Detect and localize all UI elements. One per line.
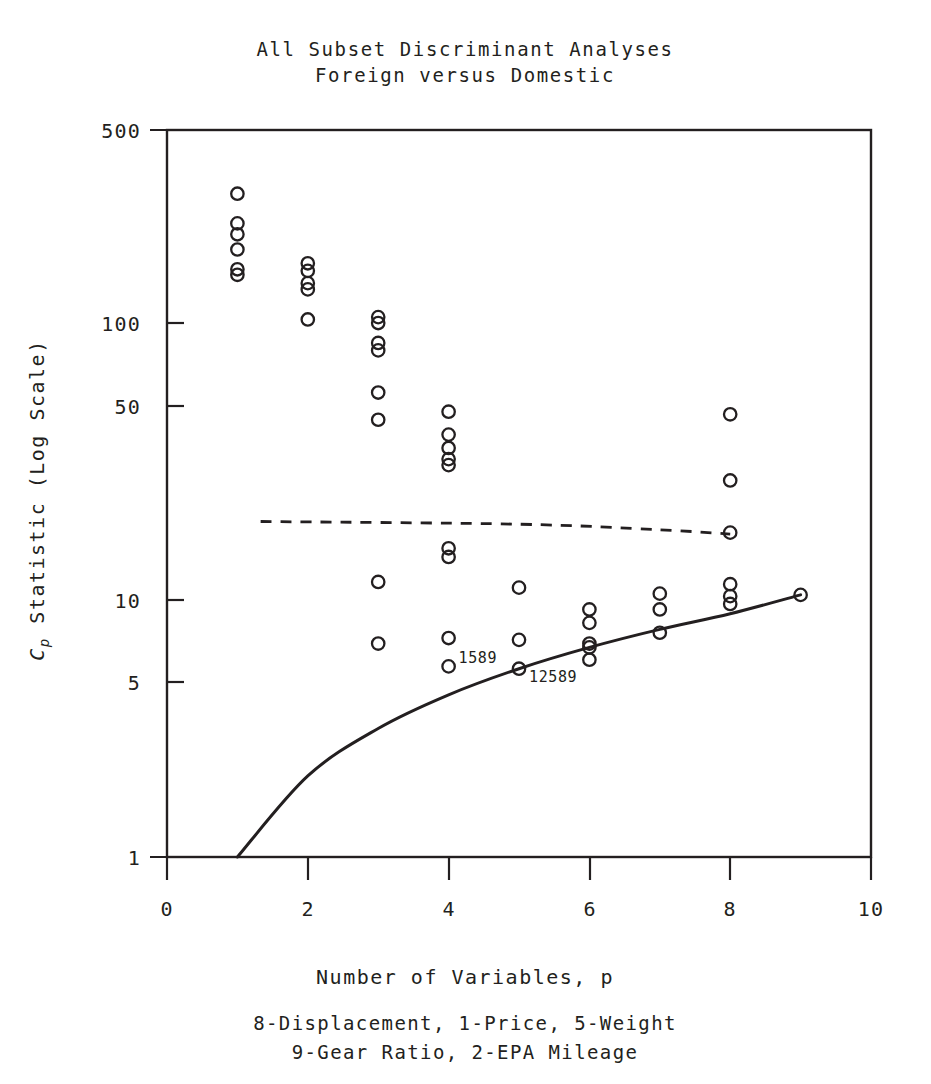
y-ticklabel-2: 50: [115, 395, 141, 419]
x-ticklabel-4: 8: [723, 897, 736, 921]
caption-line2: 9-Gear Ratio, 2-EPA Mileage: [292, 1041, 639, 1063]
y-ticklabel-1: 100: [101, 312, 141, 336]
y-axis-label: Cp Statistic (Log Scale): [25, 339, 52, 660]
y-ticklabel-4: 5: [128, 671, 141, 695]
x-ticklabel-0: 0: [160, 897, 173, 921]
x-axis-label: Number of Variables, p: [316, 965, 614, 989]
x-ticklabel-1: 2: [301, 897, 314, 921]
x-ticklabel-2: 4: [442, 897, 455, 921]
point-annotation: 12589: [529, 668, 577, 686]
y-ticklabel-3: 10: [115, 589, 141, 613]
chart-title-line2: Foreign versus Domestic: [315, 64, 615, 86]
x-ticklabel-3: 6: [583, 897, 596, 921]
y-axis-label-symbol: C: [25, 647, 49, 661]
caption-line1: 8-Displacement, 1-Price, 5-Weight: [253, 1012, 677, 1034]
figure-background: [0, 0, 931, 1084]
y-ticklabel-0: 500: [101, 119, 141, 143]
cp-statistic-scatter-plot: All Subset Discriminant Analyses Foreign…: [0, 0, 931, 1084]
svg-text:Cp Statistic (Log Scale): Cp Statistic (Log Scale): [25, 339, 52, 660]
y-axis-label-subscript: p: [36, 637, 52, 648]
point-annotation: 1589: [459, 649, 498, 667]
chart-title-line1: All Subset Discriminant Analyses: [256, 38, 673, 60]
y-axis-label-text: Statistic (Log Scale): [25, 339, 49, 637]
x-ticklabel-5: 10: [858, 897, 884, 921]
y-ticklabel-5: 1: [128, 846, 141, 870]
